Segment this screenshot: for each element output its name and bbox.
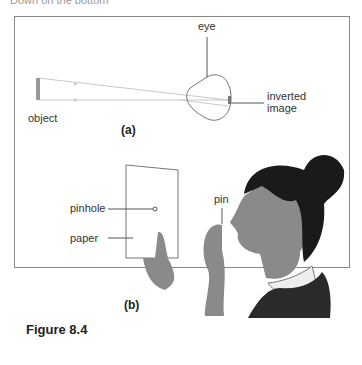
figure-caption: Figure 8.4 <box>26 322 87 337</box>
label-paper: paper <box>70 232 98 244</box>
label-part-b: (b) <box>124 298 139 312</box>
label-image: image <box>267 102 297 114</box>
label-pin: pin <box>214 193 229 205</box>
person-illustration <box>204 155 345 318</box>
figure-illustration <box>0 0 362 365</box>
label-pinhole: pinhole <box>70 202 105 214</box>
label-inverted: inverted <box>267 90 306 102</box>
paper-icon <box>126 165 178 258</box>
label-eye: eye <box>198 20 216 32</box>
label-object: object <box>28 112 57 124</box>
label-part-a: (a) <box>121 123 136 137</box>
object-icon <box>36 78 40 100</box>
